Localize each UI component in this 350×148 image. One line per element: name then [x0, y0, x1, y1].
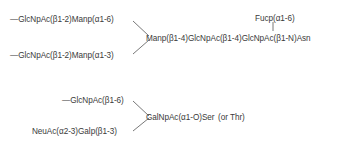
n-glycan-branch-a: —GlcNpAc(β1-2)Manp(α1-6) [10, 15, 114, 25]
n-glycan-core: Manp(β1-4)GlcNpAc(β1-4)GlcNpAc(β1-N)Asn [146, 34, 311, 44]
fucose-label: Fucp(α1-6) [255, 14, 295, 24]
o-glycan-core: GalNpAc(α1-O)Ser [146, 113, 215, 123]
o-glycan-branch-a: —GlcNpAc(β1-6) [62, 96, 124, 106]
o-glycan-note: (or Thr) [218, 113, 245, 123]
o-glycan-branch-b: NeuAc(α2-3)Galp(β1-3) [32, 127, 117, 137]
n-glycan-branch-b: —GlcNpAc(β1-2)Manp(α1-3) [10, 51, 114, 61]
